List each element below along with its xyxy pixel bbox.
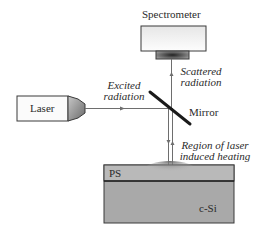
raman-setup-diagram bbox=[0, 0, 262, 233]
laser-label: Laser bbox=[30, 103, 54, 114]
c-si-label: c-Si bbox=[199, 203, 217, 214]
spectrometer-label: Spectrometer bbox=[142, 9, 201, 20]
spectrometer-nozzle bbox=[156, 51, 189, 59]
excited-radiation-label: Excited radiation bbox=[98, 80, 150, 102]
heating-region-label: Region of laser induced heating bbox=[178, 140, 252, 162]
mirror-label: Mirror bbox=[189, 107, 218, 118]
sample-beams bbox=[167, 108, 175, 166]
scattered-radiation-label: Scattered radiation bbox=[175, 66, 227, 88]
spectrometer bbox=[141, 26, 206, 59]
heating-spot bbox=[144, 161, 196, 179]
scattered-beam bbox=[170, 59, 174, 108]
excited-beam bbox=[85, 107, 171, 111]
ps-label: PS bbox=[109, 168, 121, 179]
laser-nozzle bbox=[68, 96, 85, 121]
